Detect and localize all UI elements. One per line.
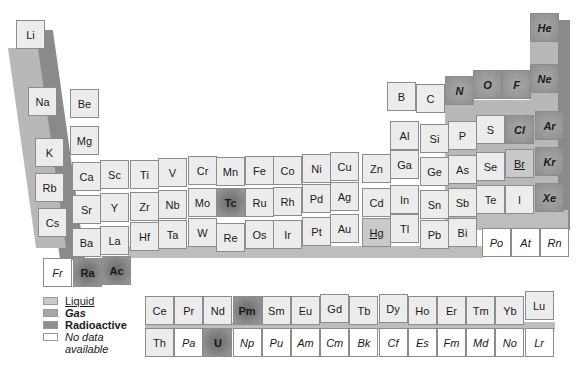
legend-label: No data available (65, 331, 125, 355)
element-symbol: Al (400, 130, 410, 142)
element-symbol: Ca (79, 171, 93, 183)
element-symbol: Br (514, 158, 525, 170)
element-symbol: Ta (167, 229, 179, 241)
element-cell-zr: Zr (130, 192, 159, 221)
element-cell-es: Es (408, 328, 437, 357)
element-symbol: Au (338, 223, 351, 235)
element-cell-ba: Ba (72, 228, 101, 257)
element-symbol: Li (26, 29, 35, 41)
element-cell-ar: Ar (535, 111, 564, 140)
element-cell-au: Au (330, 214, 359, 243)
legend-item-radioactive: Radioactive (43, 319, 127, 331)
element-symbol: He (537, 22, 551, 34)
element-cell-s: S (476, 115, 505, 144)
element-symbol: Yb (503, 305, 516, 317)
element-cell-u: U (203, 328, 232, 357)
element-cell-yb: Yb (495, 296, 524, 325)
element-symbol: Rn (547, 237, 561, 249)
element-symbol: P (459, 130, 466, 142)
element-symbol: Rh (280, 196, 294, 208)
element-cell-pm: Pm (233, 296, 262, 325)
element-symbol: Pa (182, 337, 195, 349)
legend-item-no-data: No data available (43, 331, 127, 357)
element-cell-pt: Pt (302, 217, 331, 246)
element-cell-p: P (448, 121, 477, 150)
element-cell-sn: Sn (420, 190, 449, 219)
element-symbol: As (456, 164, 469, 176)
element-cell-rb: Rb (35, 173, 64, 202)
element-cell-o: O (473, 70, 502, 99)
element-symbol: Be (78, 98, 91, 110)
element-symbol: Tb (357, 305, 370, 317)
element-symbol: At (520, 237, 530, 249)
element-symbol: Re (223, 232, 237, 244)
element-cell-co: Co (273, 156, 302, 185)
element-cell-gd: Gd (320, 294, 349, 323)
element-symbol: O (483, 79, 492, 91)
element-symbol: Fm (444, 337, 460, 349)
element-cell-b: B (387, 82, 416, 111)
element-cell-cl: Cl (505, 115, 534, 144)
legend-label: Liquid (65, 295, 94, 307)
element-symbol: Tl (400, 223, 409, 235)
element-cell-xe: Xe (535, 183, 564, 212)
element-symbol: Ir (284, 229, 291, 241)
element-cell-no: No (495, 328, 524, 357)
element-cell-mn: Mn (216, 157, 245, 186)
element-cell-pd: Pd (302, 184, 331, 213)
element-cell-w: W (188, 218, 217, 247)
element-symbol: Fr (52, 267, 62, 279)
legend: Liquid Gas Radioactive No data available (43, 295, 127, 357)
element-symbol: Sr (81, 204, 92, 216)
element-cell-fm: Fm (437, 328, 466, 357)
legend-item-gas: Gas (43, 307, 127, 319)
element-symbol: Ge (427, 166, 442, 178)
element-cell-pu: Pu (262, 328, 291, 357)
element-symbol: Th (153, 337, 166, 349)
element-cell-cf: Cf (379, 328, 408, 357)
element-symbol: C (427, 93, 435, 105)
radioactive-swatch-icon (43, 321, 58, 329)
element-cell-cr: Cr (188, 156, 217, 185)
element-cell-li: Li (16, 20, 45, 49)
element-symbol: Bi (458, 227, 468, 239)
element-symbol: U (214, 337, 222, 349)
element-cell-sb: Sb (448, 188, 477, 217)
element-cell-fe: Fe (245, 156, 274, 185)
element-cell-tc: Tc (216, 188, 245, 217)
element-cell-sr: Sr (72, 195, 101, 224)
element-symbol: Np (240, 337, 254, 349)
element-cell-np: Np (233, 328, 262, 357)
element-symbol: Cr (197, 165, 209, 177)
element-symbol: Pt (311, 226, 321, 238)
element-symbol: Ba (80, 237, 93, 249)
element-cell-v: V (158, 158, 187, 187)
element-symbol: Lr (534, 337, 544, 349)
element-cell-as: As (448, 155, 477, 184)
element-cell-md: Md (466, 328, 495, 357)
element-symbol: Md (473, 337, 488, 349)
element-symbol: Ra (80, 267, 94, 279)
element-symbol: Hf (139, 231, 150, 243)
element-symbol: Lu (533, 300, 545, 312)
element-symbol: Ag (338, 191, 351, 203)
element-cell-c: C (416, 84, 445, 113)
element-cell-al: Al (390, 121, 419, 150)
element-cell-po: Po (482, 228, 511, 257)
element-cell-hf: Hf (130, 222, 159, 251)
element-symbol: Ga (397, 159, 412, 171)
element-cell-bk: Bk (349, 328, 378, 357)
element-cell-ga: Ga (390, 150, 419, 179)
element-cell-br: Br (505, 149, 534, 178)
element-symbol: S (487, 124, 494, 136)
element-symbol: Tc (224, 197, 236, 209)
element-cell-am: Am (291, 328, 320, 357)
element-cell-pa: Pa (174, 328, 203, 357)
element-symbol: Cf (388, 337, 399, 349)
element-symbol: N (456, 85, 464, 97)
element-cell-ag: Ag (330, 182, 359, 211)
element-symbol: Sn (428, 199, 441, 211)
element-symbol: Xe (543, 192, 556, 204)
element-cell-lr: Lr (525, 328, 554, 357)
element-cell-sm: Sm (262, 296, 291, 325)
